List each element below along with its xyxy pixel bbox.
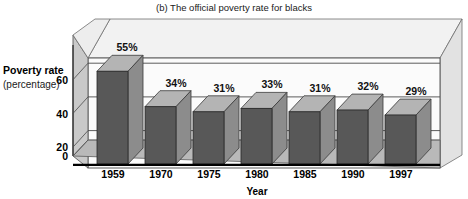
x-axis-labels: 1959 1970 1975 1980 1985 1990 1997 (101, 168, 413, 180)
bar-1959-front (97, 71, 128, 164)
bar-1970 (145, 91, 191, 164)
enclosure-top-face (88, 19, 462, 58)
bar-1997 (385, 99, 431, 164)
bar-1980 (241, 92, 287, 164)
bar-1985 (289, 96, 335, 164)
chart-title: (b) The official poverty rate for blacks (156, 2, 312, 13)
x-label-1980: 1980 (245, 168, 269, 180)
x-axis-title: Year (246, 186, 267, 197)
x-label-1975: 1975 (197, 168, 221, 180)
x-label-1970: 1970 (149, 168, 173, 180)
bar-1990-front (337, 110, 368, 164)
bar-1975 (193, 96, 239, 164)
y-axis-title: Poverty rate (3, 64, 64, 76)
value-label-1997: 29% (405, 85, 427, 97)
bar-1959 (97, 55, 143, 164)
y-axis-subtitle: (percentage) (3, 79, 60, 90)
value-label-1990: 32% (357, 80, 379, 92)
value-label-1985: 31% (309, 82, 331, 94)
x-label-1959: 1959 (101, 168, 125, 180)
x-label-1997: 1997 (389, 168, 413, 180)
x-label-1985: 1985 (293, 168, 317, 180)
bar-1990 (337, 94, 383, 164)
x-label-1990: 1990 (341, 168, 365, 180)
poverty-rate-bar-chart: (b) The official poverty rate for blacks (0, 0, 468, 199)
value-label-1975: 31% (213, 82, 235, 94)
chart-svg: (b) The official poverty rate for blacks (0, 0, 468, 199)
value-label-1959: 55% (116, 41, 138, 53)
y-tick-label-40: 40 (56, 108, 68, 120)
bar-1997-front (385, 115, 416, 164)
bar-1985-front (289, 112, 320, 164)
bar-1959-side (128, 55, 143, 164)
bar-1980-front (241, 108, 272, 164)
bar-1975-front (193, 112, 224, 164)
bar-1970-front (145, 107, 176, 164)
y-tick-label-20: 20 (56, 141, 68, 153)
value-label-1970: 34% (165, 77, 187, 89)
value-label-1980: 33% (261, 78, 283, 90)
